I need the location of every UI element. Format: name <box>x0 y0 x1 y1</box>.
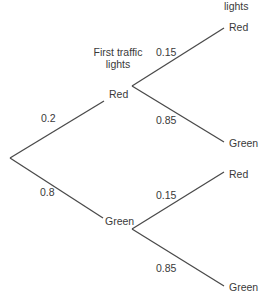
tree-lines <box>0 0 262 292</box>
branch-green-green <box>132 229 224 286</box>
prob-red-green: 0.85 <box>156 114 176 126</box>
prob-root-red: 0.2 <box>41 112 56 124</box>
node-green-green: Green <box>229 281 258 292</box>
first-lights-header-line2: lights <box>88 58 148 70</box>
branch-red-green <box>132 86 224 142</box>
prob-red-red: 0.15 <box>156 46 176 58</box>
node-red-red: Red <box>229 21 248 33</box>
branch-green-red <box>132 172 224 229</box>
node-red-green: Green <box>229 137 258 149</box>
prob-root-green: 0.8 <box>40 186 55 198</box>
prob-green-red: 0.15 <box>156 189 176 201</box>
branch-root-green <box>10 158 103 218</box>
second-lights-header: lights <box>224 0 249 12</box>
node-green-red: Red <box>229 168 248 180</box>
node-first-green: Green <box>105 215 134 227</box>
first-lights-header-line1: First traffic <box>88 46 148 58</box>
prob-green-green: 0.85 <box>156 262 176 274</box>
node-first-red: Red <box>109 88 128 100</box>
branch-root-red <box>10 101 104 158</box>
